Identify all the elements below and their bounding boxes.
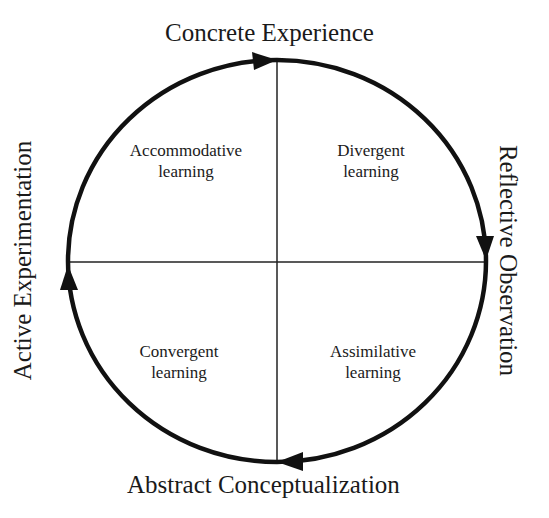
quadrant-divergent-line2: learning [291, 161, 451, 182]
arrow-left-icon [60, 265, 78, 290]
quadrant-assimilative-line1: Assimilative [293, 341, 453, 362]
learning-cycle-diagram: Concrete Experience Abstract Conceptuali… [0, 0, 549, 518]
quadrant-convergent-line2: learning [99, 362, 259, 383]
label-reflective-observation: Reflective Observation [496, 126, 521, 396]
quadrant-assimilative: Assimilative learning [293, 341, 453, 383]
label-concrete-experience: Concrete Experience [165, 20, 374, 45]
label-abstract-conceptualization: Abstract Conceptualization [127, 472, 400, 497]
quadrant-accommodative-line1: Accommodative [106, 140, 266, 161]
cycle-graphic [0, 0, 549, 518]
quadrant-assimilative-line2: learning [293, 362, 453, 383]
arrow-right-icon [476, 236, 494, 260]
arrow-top-icon [252, 52, 277, 70]
quadrant-divergent-line1: Divergent [291, 140, 451, 161]
quadrant-divergent: Divergent learning [291, 140, 451, 182]
label-active-experimentation: Active Experimentation [10, 126, 35, 396]
quadrant-convergent-line1: Convergent [99, 341, 259, 362]
arrow-bottom-icon [277, 452, 303, 471]
quadrant-accommodative: Accommodative learning [106, 140, 266, 182]
quadrant-convergent: Convergent learning [99, 341, 259, 383]
quadrant-accommodative-line2: learning [106, 161, 266, 182]
